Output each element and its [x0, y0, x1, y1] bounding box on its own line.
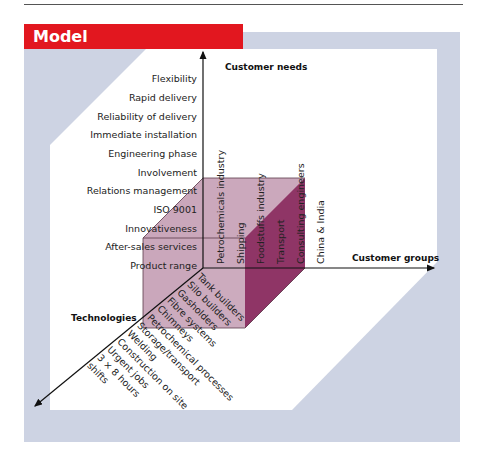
- customer-needs-list: Flexibility Rapid delivery Reliability o…: [40, 0, 197, 453]
- group-item: Transport: [275, 219, 286, 264]
- axis-title-customer-groups: Customer groups: [352, 253, 439, 263]
- need-item: Immediate installation: [90, 129, 197, 140]
- group-item: Foodstuffs industry: [255, 173, 266, 264]
- group-item: Consulting engineers: [295, 163, 306, 264]
- axis-title-customer-needs: Customer needs: [225, 62, 307, 72]
- group-item: Shipping: [235, 223, 246, 264]
- need-item: Reliability of delivery: [97, 111, 197, 122]
- need-item: Innovativeness: [125, 223, 197, 234]
- need-item: Flexibility: [152, 73, 197, 84]
- need-item: Relations management: [87, 185, 197, 196]
- group-item: Petrochemicals industry: [215, 150, 226, 264]
- need-item: Rapid delivery: [129, 92, 197, 103]
- need-item: Involvement: [138, 167, 197, 178]
- need-item: Engineering phase: [108, 148, 197, 159]
- need-item: ISO 9001: [153, 204, 197, 215]
- group-item: China & India: [315, 200, 326, 264]
- need-item: After-sales services: [105, 241, 197, 252]
- need-item: Product range: [130, 260, 197, 271]
